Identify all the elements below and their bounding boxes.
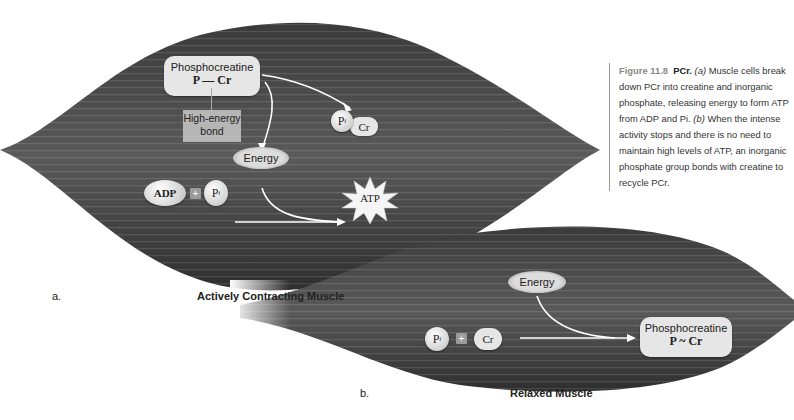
panel-a-title: Actively Contracting Muscle <box>197 290 344 302</box>
phosphate-circle-a: Pi <box>204 180 228 206</box>
atp-label: ATP <box>340 192 400 204</box>
phosphocreatine-box-a: Phosphocreatine P — Cr <box>164 56 260 96</box>
figure-caption: Figure 11.8 PCr. (a) Muscle cells break … <box>609 63 794 191</box>
adp-oval: ADP <box>144 180 186 206</box>
phosphocreatine-label: Phosphocreatine <box>164 61 260 73</box>
energy-burst-a: Energy <box>233 147 289 169</box>
energy-burst-b: Energy <box>508 271 566 293</box>
phosphocreatine-formula: P — Cr <box>164 73 260 88</box>
phosphocreatine-label-b: Phosphocreatine <box>640 322 732 334</box>
phosphate-circle-a-top: Pi <box>331 110 353 132</box>
phosphocreatine-box-b: Phosphocreatine P ~ Cr <box>640 317 732 357</box>
creatine-pill-a: Cr <box>350 117 378 136</box>
panel-b-title: Relaxed Muscle <box>510 387 593 399</box>
phosphocreatine-formula-b: P ~ Cr <box>640 334 732 349</box>
panel-b-letter: b. <box>360 387 369 399</box>
bond-connector <box>211 88 212 110</box>
plus-sign-a: + <box>190 188 201 199</box>
creatine-pill-b: Cr <box>474 328 502 350</box>
phosphate-circle-b: Pi <box>425 327 449 351</box>
plus-sign-b: + <box>456 333 467 344</box>
figure-number: Figure 11.8 <box>619 65 668 76</box>
figure-title: PCr. <box>673 65 692 76</box>
high-energy-bond-label: High-energy bond <box>183 110 241 142</box>
panel-a-letter: a. <box>52 290 61 302</box>
